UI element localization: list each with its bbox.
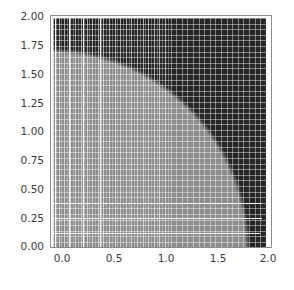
y-tick-mark	[50, 217, 51, 218]
region-high-fill	[53, 18, 266, 247]
x-tick-label: 2.0	[254, 253, 282, 264]
y-tick-mark	[50, 246, 51, 247]
y-tick-label: 1.25	[21, 98, 44, 109]
y-tick-mark	[50, 131, 51, 132]
y-tick-mark	[50, 44, 51, 45]
plot-axes	[50, 15, 272, 248]
y-tick-label: 0.50	[21, 184, 44, 195]
y-axis-tick-labels: 2.00 1.75 1.50 1.25 1.00 0.75 0.50 0.25 …	[0, 0, 44, 290]
x-axis-tick-labels: 0.0 0.5 1.0 1.5 2.0	[0, 253, 294, 273]
emphasized-gridline-v	[100, 18, 101, 247]
x-tick-label: 0.0	[48, 253, 76, 264]
figure-canvas: 2.00 1.75 1.50 1.25 1.00 0.75 0.50 0.25 …	[0, 0, 294, 290]
y-tick-label: 0.25	[21, 213, 44, 224]
y-tick-label: 1.00	[21, 126, 44, 137]
y-tick-mark	[50, 102, 51, 103]
emphasized-gridline-v	[69, 18, 70, 247]
y-tick-mark	[50, 188, 51, 189]
y-tick-label: 1.50	[21, 69, 44, 80]
mesh-data-area	[53, 18, 266, 247]
x-tick-label: 1.0	[152, 253, 180, 264]
y-tick-mark	[50, 16, 51, 17]
x-tick-mark	[63, 247, 64, 248]
emphasized-gridline-v	[55, 18, 56, 247]
x-tick-mark	[167, 247, 168, 248]
y-tick-label: 0.75	[21, 155, 44, 166]
y-tick-mark	[50, 159, 51, 160]
emphasized-gridline-h	[53, 218, 262, 219]
y-tick-mark	[50, 73, 51, 74]
y-tick-label: 2.00	[21, 11, 44, 22]
x-tick-label: 0.5	[100, 253, 128, 264]
emphasized-gridline-h	[53, 203, 262, 204]
x-tick-mark	[269, 247, 270, 248]
x-tick-mark	[219, 247, 220, 248]
x-tick-label: 1.5	[204, 253, 232, 264]
emphasized-gridline-h	[53, 233, 260, 234]
right-edge-dark-sliver	[264, 18, 266, 247]
y-tick-label: 1.75	[21, 40, 44, 51]
emphasized-gridline-v	[83, 18, 84, 247]
x-tick-mark	[115, 247, 116, 248]
y-tick-label: 0.00	[21, 241, 44, 252]
